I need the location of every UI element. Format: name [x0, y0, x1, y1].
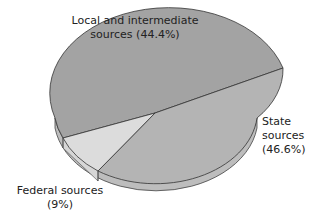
label-local-line2: sources (44.4%) [50, 28, 220, 42]
label-federal: Federal sources (9%) [12, 184, 108, 212]
label-state: State sources (46.6%) [262, 115, 306, 157]
label-local-intermediate: Local and intermediate sources (44.4%) [50, 14, 220, 42]
label-state-line3: (46.6%) [262, 143, 306, 157]
label-federal-line2: (9%) [12, 198, 108, 212]
label-local-line1: Local and intermediate [50, 14, 220, 28]
label-state-line1: State [262, 115, 306, 129]
label-state-line2: sources [262, 129, 306, 143]
label-federal-line1: Federal sources [12, 184, 108, 198]
